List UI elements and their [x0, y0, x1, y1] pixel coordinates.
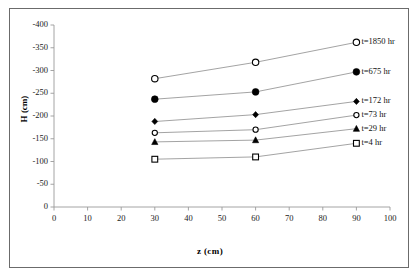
x-tick-label: 10: [74, 213, 102, 223]
x-tick-label: 20: [107, 213, 135, 223]
series-label: t=73 hr: [361, 109, 386, 119]
x-tick-label: 100: [376, 213, 404, 223]
data-point: [252, 59, 258, 65]
y-axis-ticks: [51, 25, 55, 207]
data-point: [152, 118, 158, 124]
chart-canvas: [0, 0, 420, 278]
x-tick-label: 60: [242, 213, 270, 223]
x-tick-label: 0: [40, 213, 68, 223]
y-tick-label: -50: [14, 178, 48, 188]
series-t-4-hr: [152, 140, 359, 162]
y-tick-label: -300: [14, 65, 48, 75]
series-t-675-hr: [151, 68, 359, 102]
series-label: t=29 hr: [361, 123, 386, 133]
series-label: t=4 hr: [361, 137, 382, 147]
y-tick-label: -400: [14, 19, 48, 29]
data-point: [253, 112, 259, 118]
x-axis-label: z (cm): [0, 246, 420, 256]
data-point: [252, 88, 259, 95]
x-tick-label: 80: [309, 213, 337, 223]
x-tick-label: 70: [275, 213, 303, 223]
data-point: [354, 98, 360, 104]
data-point: [353, 39, 359, 45]
figure-container: H (cm) z (cm) -400-350-300-250-200-150-1…: [0, 0, 420, 278]
series-t-1850-hr: [152, 39, 360, 82]
data-point: [353, 68, 360, 75]
x-tick-label: 50: [208, 213, 236, 223]
data-point: [152, 75, 158, 81]
data-point: [152, 130, 157, 135]
series-label: t=675 hr: [361, 66, 390, 76]
series-label: t=1850 hr: [361, 36, 394, 46]
x-tick-label: 90: [342, 213, 370, 223]
data-point: [152, 156, 158, 162]
data-point: [353, 125, 359, 131]
x-tick-label: 40: [174, 213, 202, 223]
data-point: [151, 96, 158, 103]
series-t-172-hr: [152, 98, 359, 124]
series-label: t=172 hr: [361, 95, 390, 105]
y-tick-label: -150: [14, 133, 48, 143]
axes: [54, 25, 390, 207]
y-tick-label: 0: [14, 201, 48, 211]
y-tick-label: -200: [14, 110, 48, 120]
data-point: [354, 140, 360, 146]
x-tick-label: 30: [141, 213, 169, 223]
data-point: [253, 154, 259, 160]
data-point: [354, 112, 359, 117]
data-point: [253, 127, 258, 132]
y-tick-label: -350: [14, 42, 48, 52]
y-tick-label: -100: [14, 156, 48, 166]
y-tick-label: -250: [14, 87, 48, 97]
x-axis-ticks: [54, 207, 390, 211]
